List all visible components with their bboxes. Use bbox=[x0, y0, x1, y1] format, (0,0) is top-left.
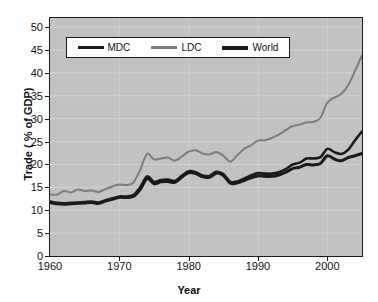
x-axis-title: Year bbox=[0, 284, 378, 296]
chart-figure: 05101520253035404550 1960197019801990200… bbox=[0, 0, 378, 302]
x-tick-mark bbox=[119, 257, 120, 261]
y-tick-label: 5 bbox=[9, 228, 43, 238]
legend-swatch-ldc bbox=[151, 46, 177, 49]
x-tick-mark bbox=[327, 257, 328, 261]
y-tick-mark bbox=[45, 119, 49, 120]
x-tick-label: 1970 bbox=[99, 260, 139, 272]
y-tick-mark bbox=[45, 27, 49, 28]
x-tick-mark bbox=[189, 257, 190, 261]
x-tick-label: 2000 bbox=[307, 260, 347, 272]
x-tick-mark bbox=[258, 257, 259, 261]
legend-swatch-world bbox=[222, 46, 248, 50]
series-line-world bbox=[50, 153, 362, 204]
series-line-ldc bbox=[50, 56, 362, 195]
y-axis-title: Trade ( % of GDP) bbox=[22, 44, 34, 224]
y-tick-mark bbox=[45, 187, 49, 188]
chart-legend: MDC LDC World bbox=[66, 37, 290, 58]
y-tick-mark bbox=[45, 164, 49, 165]
x-tick-label: 1960 bbox=[30, 260, 70, 272]
y-tick-mark bbox=[45, 73, 49, 74]
y-tick-label: 50 bbox=[9, 22, 43, 32]
legend-label-world: World bbox=[252, 42, 278, 53]
legend-label-mdc: MDC bbox=[108, 42, 131, 53]
x-tick-label: 1980 bbox=[169, 260, 209, 272]
y-tick-mark bbox=[45, 50, 49, 51]
legend-swatch-mdc bbox=[78, 46, 104, 49]
y-tick-mark bbox=[45, 233, 49, 234]
y-tick-mark bbox=[45, 256, 49, 257]
y-tick-mark bbox=[45, 210, 49, 211]
legend-item-mdc: MDC bbox=[78, 42, 131, 53]
legend-item-ldc: LDC bbox=[151, 42, 201, 53]
y-tick-mark bbox=[45, 96, 49, 97]
legend-label-ldc: LDC bbox=[181, 42, 201, 53]
legend-item-world: World bbox=[222, 42, 278, 53]
x-tick-label: 1990 bbox=[238, 260, 278, 272]
y-tick-mark bbox=[45, 142, 49, 143]
